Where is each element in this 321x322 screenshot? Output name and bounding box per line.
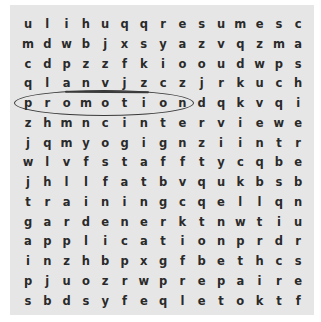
grid-letter[interactable]: l: [37, 152, 57, 172]
grid-letter[interactable]: j: [192, 73, 212, 93]
grid-letter[interactable]: n: [211, 231, 231, 251]
grid-letter[interactable]: u: [95, 14, 115, 34]
grid-letter[interactable]: o: [192, 231, 212, 251]
grid-letter[interactable]: n: [134, 192, 154, 212]
grid-letter[interactable]: q: [37, 133, 57, 153]
grid-letter[interactable]: u: [288, 212, 308, 232]
grid-letter[interactable]: r: [211, 73, 231, 93]
grid-letter[interactable]: d: [37, 34, 57, 54]
grid-letter[interactable]: m: [230, 14, 250, 34]
grid-letter[interactable]: b: [192, 251, 212, 271]
grid-letter[interactable]: x: [134, 251, 154, 271]
grid-letter[interactable]: t: [211, 291, 231, 311]
grid-letter[interactable]: c: [269, 251, 289, 271]
grid-letter[interactable]: a: [57, 192, 77, 212]
grid-letter[interactable]: e: [192, 291, 212, 311]
grid-letter[interactable]: e: [134, 291, 154, 311]
grid-letter[interactable]: c: [288, 14, 308, 34]
grid-letter[interactable]: u: [18, 14, 38, 34]
grid-letter[interactable]: f: [153, 152, 173, 172]
grid-letter[interactable]: i: [18, 251, 38, 271]
grid-letter[interactable]: w: [57, 34, 77, 54]
grid-letter[interactable]: l: [230, 192, 250, 212]
grid-letter[interactable]: q: [269, 93, 289, 113]
grid-letter[interactable]: g: [153, 133, 173, 153]
grid-letter[interactable]: q: [192, 192, 212, 212]
grid-letter[interactable]: m: [57, 133, 77, 153]
grid-letter[interactable]: q: [134, 14, 154, 34]
grid-letter[interactable]: v: [172, 172, 192, 192]
grid-letter[interactable]: s: [288, 251, 308, 271]
grid-letter[interactable]: f: [172, 251, 192, 271]
grid-letter[interactable]: w: [250, 54, 270, 74]
grid-letter[interactable]: z: [192, 133, 212, 153]
grid-letter[interactable]: r: [288, 231, 308, 251]
grid-letter[interactable]: r: [192, 113, 212, 133]
grid-letter[interactable]: b: [153, 172, 173, 192]
grid-letter[interactable]: d: [192, 93, 212, 113]
grid-letter[interactable]: t: [153, 231, 173, 251]
grid-letter[interactable]: g: [18, 212, 38, 232]
grid-letter[interactable]: e: [134, 212, 154, 232]
grid-letter[interactable]: k: [134, 54, 154, 74]
grid-letter[interactable]: c: [18, 54, 38, 74]
grid-letter[interactable]: e: [172, 113, 192, 133]
grid-letter[interactable]: t: [269, 291, 289, 311]
grid-letter[interactable]: j: [18, 133, 38, 153]
grid-letter[interactable]: p: [57, 54, 77, 74]
grid-letter[interactable]: t: [250, 212, 270, 232]
grid-letter[interactable]: u: [211, 172, 231, 192]
grid-letter[interactable]: h: [76, 14, 96, 34]
grid-letter[interactable]: d: [57, 291, 77, 311]
grid-letter[interactable]: k: [250, 291, 270, 311]
grid-letter[interactable]: l: [172, 291, 192, 311]
grid-letter[interactable]: o: [192, 54, 212, 74]
grid-letter[interactable]: i: [269, 212, 289, 232]
grid-letter[interactable]: b: [76, 34, 96, 54]
grid-letter[interactable]: t: [153, 113, 173, 133]
grid-letter[interactable]: o: [95, 133, 115, 153]
grid-letter[interactable]: r: [37, 192, 57, 212]
grid-letter[interactable]: l: [76, 231, 96, 251]
grid-letter[interactable]: z: [95, 54, 115, 74]
grid-letter[interactable]: v: [57, 152, 77, 172]
grid-letter[interactable]: q: [230, 34, 250, 54]
grid-letter[interactable]: g: [153, 251, 173, 271]
grid-letter[interactable]: c: [153, 73, 173, 93]
grid-letter[interactable]: p: [57, 231, 77, 251]
grid-letter[interactable]: h: [250, 251, 270, 271]
grid-letter[interactable]: e: [211, 251, 231, 271]
grid-letter[interactable]: i: [57, 14, 77, 34]
grid-letter[interactable]: f: [172, 152, 192, 172]
grid-letter[interactable]: s: [76, 291, 96, 311]
grid-letter[interactable]: f: [115, 54, 135, 74]
grid-letter[interactable]: r: [115, 271, 135, 291]
grid-letter[interactable]: s: [269, 14, 289, 34]
grid-letter[interactable]: k: [172, 212, 192, 232]
grid-letter[interactable]: g: [153, 192, 173, 212]
grid-letter[interactable]: k: [230, 172, 250, 192]
grid-letter[interactable]: a: [18, 231, 38, 251]
grid-letter[interactable]: o: [172, 54, 192, 74]
grid-letter[interactable]: j: [37, 271, 57, 291]
grid-letter[interactable]: l: [37, 14, 57, 34]
grid-letter[interactable]: q: [153, 291, 173, 311]
grid-letter[interactable]: e: [192, 271, 212, 291]
grid-letter[interactable]: n: [172, 133, 192, 153]
grid-letter[interactable]: b: [37, 291, 57, 311]
grid-letter[interactable]: y: [153, 34, 173, 54]
grid-letter[interactable]: r: [288, 133, 308, 153]
grid-letter[interactable]: z: [18, 113, 38, 133]
grid-letter[interactable]: i: [115, 192, 135, 212]
grid-letter[interactable]: e: [288, 271, 308, 291]
grid-letter[interactable]: k: [230, 73, 250, 93]
grid-letter[interactable]: a: [134, 152, 154, 172]
grid-letter[interactable]: j: [18, 172, 38, 192]
grid-letter[interactable]: k: [230, 93, 250, 113]
grid-letter[interactable]: w: [230, 212, 250, 232]
grid-letter[interactable]: i: [134, 133, 154, 153]
grid-letter[interactable]: e: [172, 14, 192, 34]
grid-letter[interactable]: r: [250, 231, 270, 251]
grid-letter[interactable]: v: [211, 34, 231, 54]
grid-letter[interactable]: d: [76, 212, 96, 232]
